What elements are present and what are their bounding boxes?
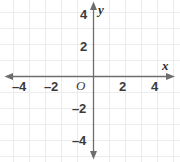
y-axis-arrow-down (90, 151, 97, 160)
y-tick-label-4: 4 (80, 8, 87, 21)
x-axis-label: x (162, 59, 169, 72)
coordinate-plane-figure: y x O –4 –2 2 4 4 2 –2 –4 (0, 0, 180, 162)
x-tick-label-2: 2 (119, 80, 126, 93)
y-tick-label-neg2: –2 (72, 102, 86, 115)
x-axis-arrow-right (166, 73, 175, 80)
y-tick-label-2: 2 (80, 40, 87, 53)
y-tick-label-neg4: –4 (72, 134, 86, 147)
y-axis-label: y (98, 3, 104, 16)
origin-label: O (76, 79, 85, 92)
y-axis-arrow-up (90, 2, 97, 11)
x-tick-label-4: 4 (151, 80, 158, 93)
x-tick-label-neg4: –4 (12, 80, 26, 93)
x-tick-label-neg2: –2 (44, 80, 58, 93)
